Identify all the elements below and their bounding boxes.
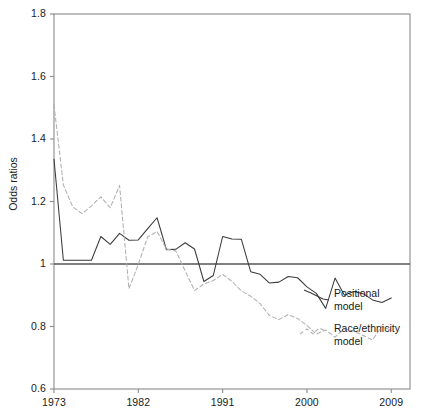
x-tick-label: 1991	[201, 396, 245, 408]
chart-figure: Odds ratios 1.81.61.41.210.80.6 19731982…	[0, 0, 421, 418]
y-tick-label: 1	[16, 257, 46, 269]
x-tick-label: 1982	[116, 396, 160, 408]
y-tick-label: 1.6	[16, 70, 46, 82]
y-tick-label: 1.4	[16, 132, 46, 144]
y-tick-label: 0.8	[16, 320, 46, 332]
x-tick-label: 2009	[369, 396, 413, 408]
chart-plot-area	[0, 0, 421, 418]
legend-sample-lines	[300, 290, 329, 334]
legend-item-race-ethnicity-model: Race/ethnicity model	[334, 322, 400, 347]
legend-swatch-positional-model	[304, 290, 329, 300]
x-axis-ticks	[54, 389, 391, 393]
y-axis-ticks	[50, 14, 54, 389]
legend-label-line1: Race/ethnicity	[334, 322, 400, 335]
x-tick-label: 1973	[32, 396, 76, 408]
y-tick-label: 0.6	[16, 382, 46, 394]
legend-label-line1: Positional	[334, 287, 380, 300]
y-tick-label: 1.2	[16, 195, 46, 207]
y-axis-title: Odds ratios	[7, 149, 19, 219]
y-tick-label: 1.8	[16, 7, 46, 19]
legend-label-line2: model	[334, 335, 400, 348]
legend-label-line2: model	[334, 300, 380, 313]
legend-item-positional-model: Positional model	[334, 287, 380, 312]
x-tick-label: 2000	[285, 396, 329, 408]
